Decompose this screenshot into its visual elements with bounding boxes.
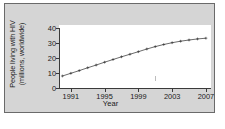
y-tick-label: 40 — [16, 24, 56, 33]
x-axis-title: Year — [5, 99, 216, 108]
data-point-marker — [129, 53, 132, 56]
data-point-marker — [103, 61, 106, 64]
y-tick-label: 0 — [16, 84, 56, 93]
y-tick-label-wrap: 10 — [5, 73, 56, 74]
data-point-marker — [179, 40, 182, 43]
y-tick-label-wrap: 0 — [5, 88, 56, 89]
chart-figure: People living with HIV (millions, worldw… — [4, 3, 215, 113]
y-tick-label: 30 — [16, 39, 56, 48]
data-point-marker — [205, 37, 208, 40]
data-point-marker — [171, 41, 174, 44]
data-point-marker — [137, 50, 140, 53]
stray-artifact-mark — [155, 76, 156, 81]
data-point-marker — [188, 39, 191, 42]
data-point-marker — [162, 43, 165, 46]
data-point-marker — [61, 75, 64, 78]
hiv-trend-line — [59, 25, 211, 89]
data-point-marker — [154, 45, 157, 48]
data-point-marker — [120, 55, 123, 58]
y-tick-label: 10 — [16, 69, 56, 78]
y-tick-label: 20 — [16, 54, 56, 63]
data-point-marker — [78, 69, 81, 72]
data-point-marker — [95, 64, 98, 67]
y-tick-label-wrap: 20 — [5, 58, 56, 59]
data-point-markers — [61, 37, 207, 78]
y-tick-label-wrap: 30 — [5, 43, 56, 44]
data-series-line — [62, 38, 206, 76]
data-point-marker — [196, 38, 199, 41]
data-point-marker — [86, 66, 89, 69]
data-point-marker — [145, 48, 148, 51]
data-point-marker — [69, 72, 72, 75]
plot-wrapper: People living with HIV (millions, worldw… — [5, 4, 214, 112]
data-point-marker — [112, 58, 115, 61]
y-tick-label-wrap: 40 — [5, 28, 56, 29]
